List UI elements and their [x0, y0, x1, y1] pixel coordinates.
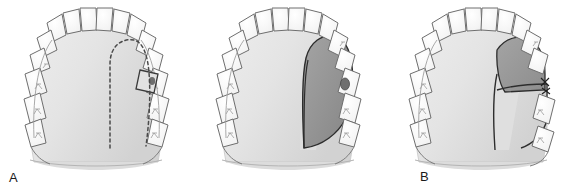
panel-a-drawing [0, 0, 193, 194]
oroantral-defect-b [341, 78, 350, 90]
panel-c: C [385, 0, 578, 194]
medical-illustration-figure: A [0, 0, 578, 194]
panel-c-drawing [385, 0, 578, 194]
panel-a: A [0, 0, 193, 194]
panel-b: B [192, 0, 385, 194]
panel-a-label: A [9, 171, 18, 184]
oroantral-defect-a [136, 70, 158, 93]
panel-b-drawing [192, 0, 385, 194]
